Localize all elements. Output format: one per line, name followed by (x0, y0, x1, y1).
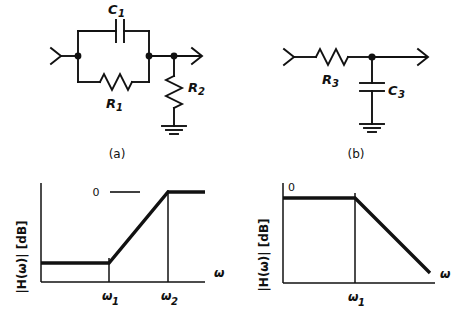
input-terminal-a (51, 48, 78, 64)
label-r3-sub: 3 (332, 78, 339, 89)
label-r1: R (106, 96, 116, 111)
zero-db-label-a: 0 (93, 186, 100, 199)
caption-b: (b) (348, 147, 365, 161)
tick-label-w1-sub-b: 1 (358, 297, 365, 308)
label-c1: C (108, 2, 118, 17)
y-axis-label-b: |H(ω)| [dB] (257, 218, 271, 291)
bode-plot-a: 0 ω ω 1 ω 2 |H(ω)| [dB] (0, 165, 240, 324)
label-r2-sub: 2 (198, 86, 205, 97)
response-curve-b (283, 198, 430, 273)
label-c1-sub: 1 (118, 8, 125, 19)
label-c3: C (388, 83, 398, 98)
input-terminal-b (284, 49, 316, 65)
circuit-diagram-a: C 1 R 1 R 2 (a) (0, 0, 240, 165)
label-c3-sub: 3 (398, 89, 405, 100)
response-curve-a (41, 192, 205, 263)
label-r3: R (322, 72, 332, 87)
x-axis-label-b: ω (440, 267, 451, 281)
tick-label-w1-sub-a: 1 (112, 296, 119, 307)
capacitor-c3-b (360, 57, 384, 124)
resistor-r3-b (316, 49, 372, 65)
bode-plot-b: 0 ω ω 1 |H(ω)| [dB] (240, 165, 466, 324)
caption-a: (a) (109, 147, 126, 161)
y-axis-label-a: |H(ω)| [dB] (15, 220, 29, 293)
zero-db-label-b: 0 (288, 181, 295, 194)
label-r1-sub: 1 (116, 102, 123, 113)
ground-symbol-b (360, 124, 384, 132)
figure-root: C 1 R 1 R 2 (a) (0, 0, 466, 324)
label-r2: R (188, 80, 198, 95)
tick-label-w2-sub-a: 2 (171, 296, 178, 307)
parallel-branch-a (78, 20, 149, 90)
ground-symbol-a (162, 126, 186, 134)
circuit-diagram-b: R 3 C 3 (b) (240, 0, 466, 165)
x-axis-label-a: ω (214, 266, 225, 280)
resistor-r2-a (166, 56, 182, 126)
